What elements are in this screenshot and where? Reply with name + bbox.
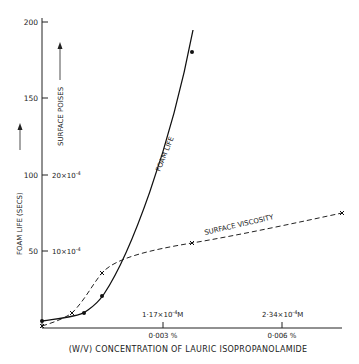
molar-label-1: 1·17×10-4M: [142, 309, 183, 319]
x-tick-0003: 0·003 %: [149, 332, 178, 340]
arrow-up-icon: [58, 42, 63, 49]
y-tick-100: 100: [24, 171, 39, 180]
foam-life-curve-label: FOAM LIFE: [154, 136, 175, 173]
secondary-tick-20e-4: 20×10-4: [52, 170, 81, 180]
y-tick-50: 50: [28, 247, 38, 256]
secondary-axis-label: SURFACE POISES: [57, 86, 65, 146]
y-tick-150: 150: [24, 94, 39, 103]
chart: 200 150 100 50 20×10-4 10×10-4 FOAM LIFE…: [0, 0, 359, 364]
y-axis-label: FOAM LIFE (SECS): [16, 192, 24, 255]
molar-label-2: 2·34×10-4M: [262, 309, 303, 319]
x-tick-0006: 0·006 %: [268, 332, 297, 340]
arrow-up-icon: [18, 123, 23, 130]
secondary-tick-10e-4: 10×10-4: [52, 246, 81, 256]
y-tick-200: 200: [24, 18, 39, 27]
x-axis-label: (W/V) CONCENTRATION OF LAURIC ISOPROPANO…: [69, 345, 308, 354]
surface-viscosity-curve-label: SURFACE VISCOSITY: [204, 213, 275, 237]
